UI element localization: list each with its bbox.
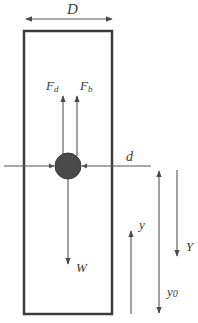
weight-vector: W [68, 178, 88, 275]
initial-position-dimension: y0 [159, 171, 178, 313]
buoyancy-force-subscript: b [88, 84, 93, 94]
sphere [55, 153, 81, 179]
tube-diameter-label: D [66, 1, 78, 17]
displacement-vector: Y [177, 170, 195, 256]
buoyancy-force-vector: Fb [77, 78, 93, 156]
weight-label: W [76, 260, 88, 275]
svg-text:Fd: Fd [45, 78, 59, 94]
svg-text:Fb: Fb [79, 78, 93, 94]
displacement-label: Y [186, 239, 195, 254]
drag-force-subscript: d [54, 84, 59, 94]
svg-text:y0: y0 [165, 284, 178, 299]
initial-position-subscript: 0 [173, 288, 178, 299]
tube-diameter-dimension: D [26, 1, 112, 19]
sphere-diameter-label: d [126, 149, 134, 164]
drag-force-vector: Fd [45, 78, 63, 156]
position-y-label: y [137, 217, 145, 232]
diagram-canvas: D Fd Fb d W y y0 [0, 0, 198, 323]
position-y-vector: y [131, 217, 145, 314]
